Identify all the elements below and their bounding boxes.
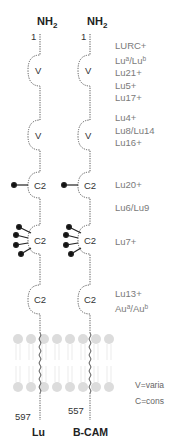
lu-domain-v2-label: V — [35, 130, 41, 141]
bcam-domain-c2b-label: C2 — [84, 235, 96, 246]
bcam-protein-name: B-CAM — [73, 426, 108, 438]
lu-domain-c2a-label: C2 — [34, 180, 46, 191]
epitope-lua-lub: Lua/Lub — [115, 53, 146, 68]
lu-domain-v1-label: V — [35, 65, 41, 76]
bcam-domain-c2a-label: C2 — [84, 180, 96, 191]
epitope-group-v2: Lu4+ Lu8/Lu14 Lu16+ — [115, 112, 155, 150]
bcam-transmembrane — [89, 333, 91, 393]
bcam-chain — [78, 34, 90, 420]
epitope-lu4: Lu4+ — [115, 112, 155, 125]
epitope-lu21: Lu21+ — [115, 67, 146, 80]
lu-start-residue: 1 — [31, 31, 36, 42]
epitope-lu16: Lu16+ — [115, 137, 155, 150]
membrane-bilayer — [13, 334, 114, 392]
legend-constant: C=cons — [135, 396, 164, 406]
epitope-group-c2a: Lu20+ — [115, 179, 142, 192]
lu-n-terminus: NH2 — [37, 15, 57, 30]
bcam-domain-v1-label: V — [85, 65, 91, 76]
epitope-lu5: Lu5+ — [115, 80, 146, 93]
lu-protein-name: Lu — [32, 426, 45, 438]
epitope-lu8-lu14: Lu8/Lu14 — [115, 125, 155, 138]
membrane-tails — [16, 344, 111, 382]
bcam-end-residue: 557 — [68, 405, 84, 416]
glycan-lollipops — [12, 183, 81, 257]
membrane-top-heads — [13, 334, 114, 344]
epitope-lu17: Lu17+ — [115, 92, 146, 105]
epitope-group-c2b: Lu7+ — [115, 236, 136, 249]
bcam-start-residue: 1 — [81, 31, 86, 42]
lu-domain-c2c-label: C2 — [34, 294, 46, 305]
epitope-group-v1: LURC+ Lua/Lub Lu21+ Lu5+ Lu17+ — [115, 40, 146, 105]
bcam-domain-v2-label: V — [85, 130, 91, 141]
epitope-lu20: Lu20+ — [115, 179, 142, 192]
epitope-aua-aub: Aua/Aub — [115, 301, 148, 316]
epitope-group-link: Lu6/Lu9 — [115, 202, 149, 215]
epitope-group-c2c: Lu13+ Aua/Aub — [115, 288, 148, 315]
lu-domain-c2b-label: C2 — [34, 235, 46, 246]
lu-chain — [28, 34, 40, 420]
epitope-lu6-lu9: Lu6/Lu9 — [115, 202, 149, 215]
legend-variable: V=varia — [135, 380, 164, 390]
epitope-lu13: Lu13+ — [115, 288, 148, 301]
lu-end-residue: 597 — [15, 411, 31, 422]
bcam-n-terminus: NH2 — [87, 15, 107, 30]
epitope-lu7: Lu7+ — [115, 236, 136, 249]
membrane-bottom-heads — [13, 382, 114, 392]
bcam-domain-c2c-label: C2 — [84, 294, 96, 305]
epitope-lurc: LURC+ — [115, 40, 146, 53]
